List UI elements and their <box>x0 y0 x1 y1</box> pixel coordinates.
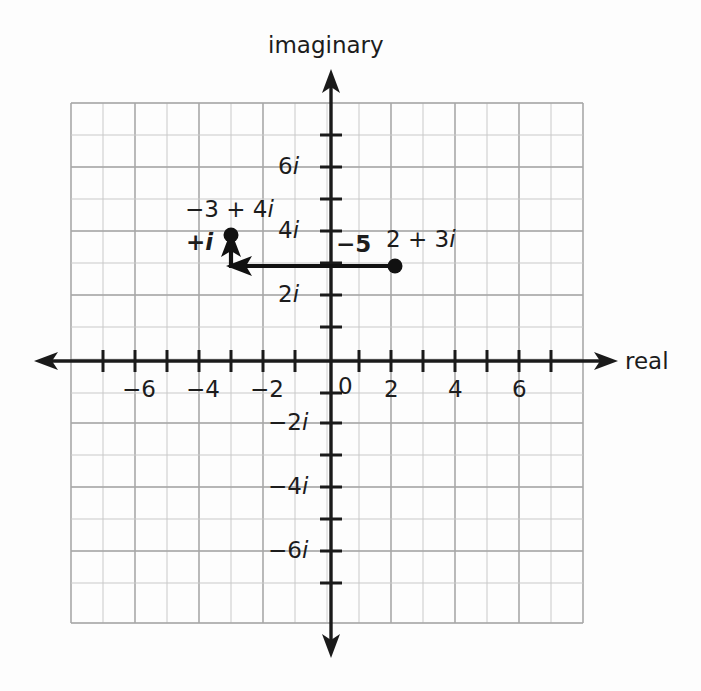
vector-horizontal-minus5 <box>226 256 395 276</box>
y-tick-label--2i: −2i <box>268 411 308 434</box>
point-label-neg3-plus-4i: −3 + 4i <box>185 198 274 221</box>
axes <box>44 79 608 648</box>
y-tick--4i-value: −4 <box>268 473 302 499</box>
vector-v-text: + <box>186 229 205 255</box>
imaginary-unit-glyph: i <box>267 196 273 222</box>
imaginary-unit-glyph: i <box>205 229 213 255</box>
x-tick-label-4: 4 <box>448 378 463 401</box>
y-tick-label-4i: 4i <box>278 219 299 242</box>
imaginary-unit-glyph: i <box>302 537 308 563</box>
imaginary-unit-glyph: i <box>302 409 308 435</box>
axis-arrowheads <box>34 69 618 658</box>
imaginary-unit-glyph: i <box>449 226 455 252</box>
y-tick--6i-value: −6 <box>268 537 302 563</box>
y-tick-label-2i: 2i <box>278 283 299 306</box>
y-tick-label--6i: −6i <box>268 539 308 562</box>
x-tick-label--6: −6 <box>122 378 156 401</box>
x-tick-label--2: −2 <box>250 378 284 401</box>
imaginary-unit-glyph: i <box>302 473 308 499</box>
complex-plane-figure: imaginary real 0 −6 −4 −2 2 4 6 6i 4i 2i… <box>0 0 701 691</box>
y-tick-6i-value: 6 <box>278 153 293 179</box>
x-tick-label-2: 2 <box>384 378 399 401</box>
vector-label-plus-i: +i <box>186 231 213 254</box>
grid-minor <box>71 103 583 623</box>
imaginary-unit-glyph: i <box>293 153 299 179</box>
y-tick-2i-value: 2 <box>278 281 293 307</box>
point-a-text: −3 + 4 <box>185 196 267 222</box>
y-tick-label--4i: −4i <box>268 475 308 498</box>
imaginary-axis-title: imaginary <box>268 34 384 57</box>
imaginary-unit-glyph: i <box>293 281 299 307</box>
origin-label: 0 <box>338 375 353 398</box>
vector-label-minus-5: −5 <box>336 233 371 256</box>
point-label-2-plus-3i: 2 + 3i <box>386 228 456 251</box>
point-marker-2-plus-3i <box>388 259 403 274</box>
point-b-text: 2 + 3 <box>386 226 449 252</box>
x-tick-label-6: 6 <box>512 378 527 401</box>
y-tick--2i-value: −2 <box>268 409 302 435</box>
real-axis-title: real <box>625 350 669 373</box>
point-marker-neg3-plus-4i <box>224 228 239 243</box>
plane-canvas <box>0 0 701 691</box>
y-tick-4i-value: 4 <box>278 217 293 243</box>
y-tick-label-6i: 6i <box>278 155 299 178</box>
x-tick-label--4: −4 <box>186 378 220 401</box>
imaginary-unit-glyph: i <box>293 217 299 243</box>
